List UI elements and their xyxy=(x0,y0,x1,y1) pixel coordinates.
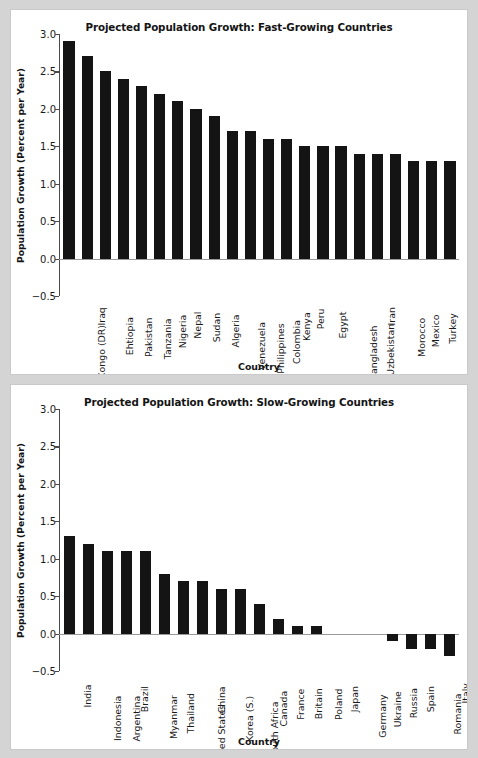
y-tick-mark xyxy=(55,184,59,185)
y-tick-mark xyxy=(55,34,59,35)
y-tick-label: 3.0 xyxy=(40,404,56,415)
bar xyxy=(406,634,418,649)
x-tick-label: Thailand xyxy=(185,693,196,733)
bar xyxy=(154,94,165,259)
x-tick-label: Algeria xyxy=(231,314,242,347)
y-axis-label-text: Population Growth (Percent per Year) xyxy=(16,67,27,262)
bar xyxy=(197,581,209,633)
x-tick-label: Canada xyxy=(277,691,288,727)
y-tick-label: 1.0 xyxy=(40,178,56,189)
bar xyxy=(299,146,310,258)
bar xyxy=(140,551,152,633)
x-tick-label: Russia xyxy=(408,688,419,718)
bar xyxy=(227,131,238,258)
chart-panel-fast-growing: Projected Population Growth: Fast-Growin… xyxy=(10,9,468,375)
y-tick-label: −0.5 xyxy=(32,666,56,677)
y-tick-mark xyxy=(55,109,59,110)
chart-title-fast-growing: Projected Population Growth: Fast-Growin… xyxy=(11,21,467,33)
x-tick-label: Japan xyxy=(349,686,360,712)
y-tick-label: 1.5 xyxy=(40,516,56,527)
bar-series-slow-growing xyxy=(60,409,459,671)
bar xyxy=(426,161,437,258)
x-tick-label: Brazil xyxy=(140,686,151,712)
bar xyxy=(136,86,147,258)
y-axis-label-fast-growing: Population Growth (Percent per Year) xyxy=(13,34,29,296)
bar-series-fast-growing xyxy=(60,34,459,296)
x-tick-label: Indonesia xyxy=(111,696,122,741)
x-axis-label-fast-growing: Country xyxy=(59,361,459,372)
bar xyxy=(121,551,133,633)
y-tick-mark xyxy=(55,221,59,222)
y-tick-label: 2.5 xyxy=(40,441,56,452)
y-tick-label: 0.0 xyxy=(40,628,56,639)
y-tick-label: −0.5 xyxy=(32,291,56,302)
x-tick-label: Nigeria xyxy=(177,315,188,349)
bar xyxy=(178,581,190,633)
bar xyxy=(245,131,256,258)
bar xyxy=(425,634,437,649)
x-tick-label: Colombia xyxy=(291,320,302,364)
bar xyxy=(273,619,285,634)
x-tick-label: Poland xyxy=(332,689,343,720)
x-tick-label: Iran xyxy=(387,307,398,325)
x-tick-label: Ehtiopia xyxy=(124,317,135,355)
x-tick-label: Italy xyxy=(460,683,468,703)
bar xyxy=(387,634,399,641)
bar xyxy=(102,551,114,633)
x-tick-label: Germany xyxy=(376,695,387,738)
bar xyxy=(63,41,74,258)
bar xyxy=(335,146,346,258)
bar xyxy=(83,544,95,634)
y-tick-labels-slow-growing: −0.50.00.51.01.52.02.53.0 xyxy=(29,409,59,671)
x-tick-label: India xyxy=(81,685,92,708)
y-tick-mark xyxy=(55,671,59,672)
y-tick-mark xyxy=(55,71,59,72)
bar xyxy=(281,139,292,259)
x-tick-label: Spain xyxy=(425,686,436,712)
bar xyxy=(254,604,266,634)
x-tick-label: Morocco xyxy=(415,318,426,357)
figure-container: Projected Population Growth: Fast-Growin… xyxy=(0,0,478,758)
bar xyxy=(263,139,274,259)
x-tick-label: Tanzania xyxy=(162,318,173,359)
y-axis-label-slow-growing: Population Growth (Percent per Year) xyxy=(13,409,29,671)
y-tick-label: 2.0 xyxy=(40,478,56,489)
y-tick-label: 0.5 xyxy=(40,216,56,227)
y-tick-mark xyxy=(55,146,59,147)
x-tick-label: China xyxy=(216,686,227,713)
bar xyxy=(82,56,93,258)
x-tick-label: Egypt xyxy=(337,312,348,339)
x-tick-label: Korea (S.) xyxy=(244,696,255,742)
bar xyxy=(317,146,328,258)
x-tick-label: Peru xyxy=(315,308,326,329)
bar xyxy=(444,634,456,656)
bar xyxy=(118,79,129,259)
y-tick-mark xyxy=(55,484,59,485)
y-tick-label: 1.5 xyxy=(40,141,56,152)
y-tick-mark xyxy=(55,521,59,522)
x-tick-label: Mexico xyxy=(430,314,441,347)
x-tick-label: Britain xyxy=(313,688,324,719)
x-tick-label: Pakistan xyxy=(143,318,154,357)
y-tick-label: 3.0 xyxy=(40,29,56,40)
bar xyxy=(354,154,365,259)
bar xyxy=(190,109,201,259)
y-tick-mark xyxy=(55,409,59,410)
x-tick-label: Ukraine xyxy=(392,691,403,727)
y-tick-label: 1.0 xyxy=(40,553,56,564)
y-tick-mark xyxy=(55,446,59,447)
y-tick-mark xyxy=(55,559,59,560)
bar xyxy=(209,116,220,258)
y-tick-label: 0.0 xyxy=(40,253,56,264)
chart-title-slow-growing: Projected Population Growth: Slow-Growin… xyxy=(11,396,467,408)
chart-panel-slow-growing: Projected Population Growth: Slow-Growin… xyxy=(10,384,468,750)
bar xyxy=(159,574,171,634)
x-tick-label: Myanmar xyxy=(168,695,179,739)
y-tick-mark xyxy=(55,259,59,260)
y-tick-mark xyxy=(55,296,59,297)
bar xyxy=(408,161,419,258)
y-tick-label: 2.0 xyxy=(40,103,56,114)
bar xyxy=(100,71,111,258)
y-tick-label: 2.5 xyxy=(40,66,56,77)
bar xyxy=(216,589,228,634)
